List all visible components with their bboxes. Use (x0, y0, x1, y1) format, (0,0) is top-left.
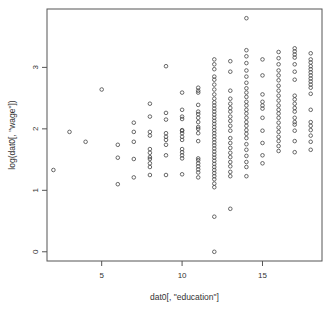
data-point (229, 155, 233, 159)
data-point (293, 78, 297, 82)
data-point (213, 93, 217, 97)
data-point (213, 250, 217, 254)
data-point (164, 154, 168, 158)
data-point (293, 116, 297, 120)
data-point (309, 108, 313, 112)
data-point (245, 136, 249, 140)
data-point (277, 69, 281, 73)
data-point (309, 128, 313, 132)
data-point (229, 124, 233, 128)
data-point (293, 63, 297, 67)
data-point (245, 165, 249, 169)
data-point (148, 165, 152, 169)
data-point (309, 120, 313, 124)
data-point (196, 112, 200, 116)
data-point (180, 173, 184, 177)
data-point (261, 154, 265, 158)
data-point (245, 48, 249, 52)
data-point (277, 94, 281, 98)
data-point (261, 74, 265, 78)
data-point (100, 88, 104, 92)
plot-frame (47, 9, 322, 261)
data-point (229, 160, 233, 164)
data-point (132, 130, 136, 134)
data-point (213, 63, 217, 67)
data-point (277, 144, 281, 148)
y-tick-label: 1 (31, 188, 40, 193)
data-point (229, 106, 233, 110)
data-point (293, 110, 297, 114)
data-point (261, 100, 265, 104)
data-point (245, 81, 249, 85)
data-point (229, 151, 233, 155)
data-point (229, 136, 233, 140)
data-point (245, 16, 249, 20)
data-point (132, 157, 136, 161)
data-point (245, 124, 249, 128)
data-point (245, 132, 249, 136)
y-axis-label: log(dat0[, "wage"]) (7, 100, 17, 170)
data-point (245, 95, 249, 99)
scatter-chart: 51015 0123 dat0[, "education"] log(dat0[… (0, 0, 332, 309)
data-point (213, 88, 217, 92)
data-point (180, 91, 184, 95)
data-point (164, 111, 168, 115)
data-point (261, 93, 265, 97)
y-tick-label: 0 (31, 249, 40, 254)
data-point (213, 67, 217, 71)
data-point (277, 74, 281, 78)
data-point (213, 185, 217, 189)
data-point (68, 130, 72, 134)
data-point (277, 121, 281, 125)
data-point (277, 108, 281, 112)
data-point (148, 102, 152, 106)
data-point (245, 75, 249, 79)
data-point (229, 70, 233, 74)
data-point (245, 174, 249, 178)
data-point (293, 150, 297, 154)
data-point (229, 174, 233, 178)
data-point (148, 173, 152, 177)
data-point (196, 131, 200, 135)
data-point (277, 149, 281, 153)
data-point (309, 92, 313, 96)
x-axis: 51015 (99, 261, 267, 280)
y-tick-label: 2 (31, 126, 40, 131)
data-point (245, 128, 249, 132)
data-point (277, 112, 281, 116)
data-point (309, 124, 313, 128)
x-tick-label: 5 (99, 271, 104, 280)
y-axis: 0123 (31, 65, 47, 254)
data-point (277, 126, 281, 130)
data-point (277, 50, 281, 54)
data-point (309, 148, 313, 152)
data-point (245, 112, 249, 116)
data-point (309, 140, 313, 144)
data-point (52, 168, 56, 172)
data-point (293, 98, 297, 102)
data-point (229, 141, 233, 145)
data-point (309, 134, 313, 138)
data-point (245, 61, 249, 65)
data-point (229, 170, 233, 174)
data-point (277, 63, 281, 67)
data-point (148, 162, 152, 166)
data-point (245, 55, 249, 59)
data-point (277, 79, 281, 83)
data-point (293, 139, 297, 143)
data-point (116, 143, 120, 147)
data-point (164, 64, 168, 68)
data-point (277, 116, 281, 120)
data-point (245, 116, 249, 120)
data-point (261, 141, 265, 145)
data-point (148, 130, 152, 134)
data-point (148, 147, 152, 151)
data-point (245, 154, 249, 158)
data-point (132, 176, 136, 180)
data-point (229, 97, 233, 101)
data-point (148, 115, 152, 119)
data-point (261, 116, 265, 120)
data-point (245, 69, 249, 73)
data-point (229, 129, 233, 133)
data-point (84, 140, 88, 144)
